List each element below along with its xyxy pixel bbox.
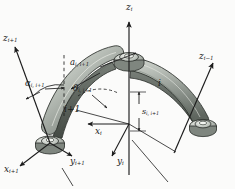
axis-z-i-minus-1 <box>174 63 213 153</box>
axis-label-y-i: yi <box>117 157 124 167</box>
parameter-label-s: si, i+1 <box>142 108 159 116</box>
axis-x-i-plus-1 <box>20 143 50 166</box>
construction-lines <box>62 110 176 186</box>
axis-label-y-i-plus-1: yi+1 <box>70 157 85 167</box>
joint-boss-right <box>190 119 217 136</box>
axis-label-z-i-plus-1: zi+1 <box>3 34 17 44</box>
parameter-label-a: ai, i+1 <box>70 58 89 67</box>
dh-kinematics-figure: zi zi+1 zi−1 xi yi xi+1 yi+1 ai, i+1 αi,… <box>0 0 235 189</box>
axis-label-x-i-plus-1: xi+1 <box>4 165 19 175</box>
axis-label-z-i: zi <box>126 3 132 13</box>
axis-y-i <box>112 124 129 156</box>
axis-z-i-plus-1 <box>15 47 50 143</box>
link-label-i-plus-1: i+1 <box>64 105 80 114</box>
axis-label-x-i: xi <box>95 127 102 137</box>
parameter-label-theta: θi, i+1 <box>73 84 92 93</box>
link-label-i: i <box>158 79 161 88</box>
parameter-label-alpha: αi, i+1 <box>25 79 45 88</box>
axis-label-z-i-minus-1: zi−1 <box>199 52 213 62</box>
